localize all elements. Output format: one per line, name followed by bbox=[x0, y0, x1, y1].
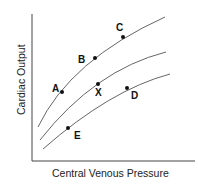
lower-curve bbox=[43, 74, 170, 149]
label-e: E bbox=[74, 131, 81, 141]
x-axis-label: Central Venous Pressure bbox=[52, 167, 169, 179]
label-c: C bbox=[116, 23, 123, 33]
label-b: B bbox=[78, 55, 85, 65]
point-a bbox=[60, 90, 64, 94]
label-a: A bbox=[52, 84, 59, 94]
label-d: D bbox=[131, 91, 138, 101]
point-e bbox=[66, 126, 70, 130]
label-x: X bbox=[95, 88, 102, 98]
point-b bbox=[93, 56, 97, 60]
point-c bbox=[121, 35, 125, 39]
point-d bbox=[125, 86, 129, 90]
upper-curve bbox=[38, 17, 165, 127]
y-axis-label: Cardiac Output bbox=[15, 45, 27, 115]
middle-curve bbox=[40, 52, 166, 140]
point-x bbox=[96, 82, 100, 86]
